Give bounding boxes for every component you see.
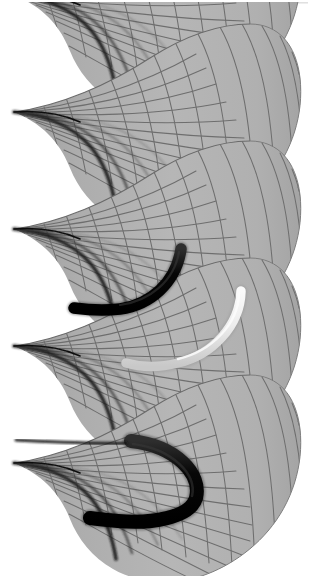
right-mask	[308, 0, 323, 583]
bottom-mask	[0, 576, 323, 583]
top-mask	[0, 0, 323, 2]
figure-canvas: Cuspidal developable surface with geodes…	[0, 0, 323, 583]
surface-render-svg	[0, 0, 323, 583]
